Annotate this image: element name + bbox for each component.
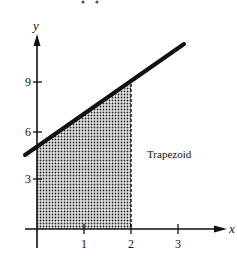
y-tick-9: 9 bbox=[25, 75, 31, 89]
y-axis-arrow-icon bbox=[34, 34, 41, 46]
y-tick-3: 3 bbox=[25, 172, 31, 186]
trapezoid-label: Trapezoid bbox=[147, 148, 192, 160]
cropped-header-marks bbox=[81, 0, 98, 3]
trapezoid-region bbox=[37, 84, 131, 229]
x-axis-arrow-icon bbox=[214, 226, 227, 233]
x-tick-1: 1 bbox=[81, 237, 87, 251]
x-tick-3: 3 bbox=[175, 237, 181, 251]
y-tick-6: 6 bbox=[25, 125, 31, 139]
trapezoid-graph: y x 9 6 3 1 2 3 Trapezoid bbox=[0, 0, 237, 278]
y-axis-label: y bbox=[31, 18, 39, 33]
x-axis-label: x bbox=[228, 221, 235, 236]
x-tick-2: 2 bbox=[128, 237, 134, 251]
